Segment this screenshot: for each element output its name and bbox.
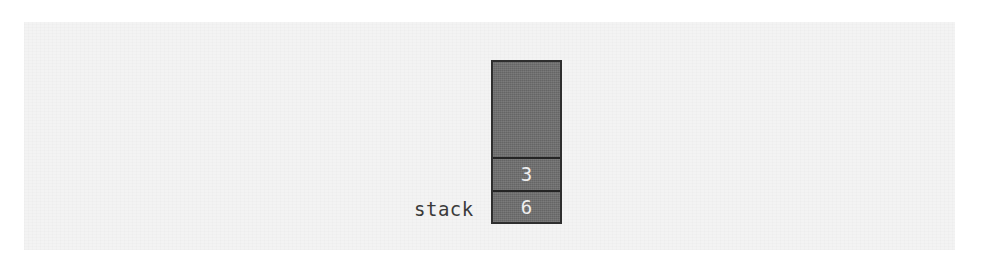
stack-diagram: stack 3 6: [0, 0, 985, 271]
stack-cell-top: 3: [493, 157, 560, 190]
diagram-canvas: stack 3 6: [0, 0, 985, 271]
stack-cell-bottom: 6: [493, 190, 560, 222]
stack-empty-region: [493, 62, 560, 157]
stack-container: 3 6: [491, 60, 562, 224]
stack-label: stack: [414, 198, 486, 220]
